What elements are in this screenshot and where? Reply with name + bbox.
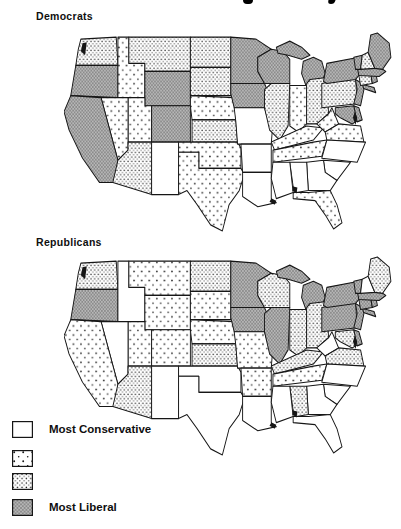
legend-swatch-sparse-dots bbox=[12, 450, 33, 467]
state-ny bbox=[323, 57, 358, 83]
state-wy bbox=[145, 295, 190, 329]
map-title-democrats: Democrats bbox=[36, 10, 93, 22]
legend-swatch-svg bbox=[12, 473, 33, 490]
state-in bbox=[290, 310, 307, 356]
legend-swatch-svg bbox=[12, 421, 33, 438]
legend-item-most-liberal: Most Liberal bbox=[12, 498, 117, 516]
state-ia bbox=[231, 308, 268, 332]
state-nc bbox=[322, 140, 366, 162]
state-sd bbox=[190, 67, 230, 95]
state-ia bbox=[231, 84, 268, 108]
state-ny bbox=[323, 281, 358, 307]
state-nm bbox=[152, 142, 179, 194]
state-wy bbox=[145, 71, 190, 105]
state-ne bbox=[190, 96, 235, 120]
state-ks bbox=[192, 344, 237, 366]
legend-swatch-rect bbox=[13, 473, 33, 489]
map-title-republicans: Republicans bbox=[36, 236, 102, 248]
state-nm bbox=[152, 366, 179, 418]
legend-item-most-conservative: Most Conservative bbox=[12, 420, 151, 438]
legend-swatch-gray-shade bbox=[12, 499, 33, 516]
legend-swatch-svg bbox=[12, 499, 33, 516]
state-ar bbox=[241, 144, 271, 172]
state-ks bbox=[192, 120, 237, 142]
state-or bbox=[71, 289, 118, 321]
cropped-text-artifact bbox=[328, 0, 336, 4]
legend-swatch-dense-dots bbox=[12, 473, 33, 490]
legend-label: Most Liberal bbox=[49, 501, 117, 513]
state-co bbox=[152, 106, 191, 142]
map-svg-democrats bbox=[64, 27, 401, 239]
state-sd bbox=[190, 291, 230, 319]
legend-swatch-white bbox=[12, 421, 33, 438]
legend-label: Most Conservative bbox=[49, 423, 151, 435]
state-co bbox=[152, 330, 191, 366]
state-ar bbox=[241, 368, 271, 396]
cropped-text-artifact bbox=[243, 0, 253, 4]
figure-page: Democrats Republicans Most Conservative … bbox=[0, 0, 401, 529]
legend-swatch-rect bbox=[13, 499, 33, 515]
state-ms bbox=[271, 162, 293, 198]
state-nd bbox=[190, 261, 230, 291]
state-ms bbox=[271, 386, 293, 422]
state-ne bbox=[190, 320, 235, 344]
state-or bbox=[71, 65, 118, 97]
legend-swatch-rect bbox=[13, 450, 33, 466]
state-fl bbox=[293, 415, 342, 453]
state-fl bbox=[293, 191, 342, 229]
legend-item-dense-dots bbox=[12, 472, 49, 490]
state-nc bbox=[322, 364, 366, 386]
legend-swatch-svg bbox=[12, 450, 33, 467]
us-map-democrats bbox=[64, 27, 401, 239]
legend-swatch-rect bbox=[13, 421, 33, 437]
state-nd bbox=[190, 37, 230, 67]
legend-item-sparse-dots bbox=[12, 449, 49, 467]
state-in bbox=[290, 86, 307, 132]
